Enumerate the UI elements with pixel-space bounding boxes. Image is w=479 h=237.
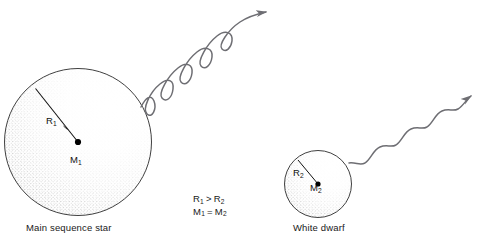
- relation-equations: R1>R2 M1=M2: [193, 193, 227, 218]
- relation-radius: R1>R2: [193, 193, 227, 206]
- white-dwarf-caption: White dwarf: [293, 222, 345, 233]
- main-sequence-star-caption: Main sequence star: [26, 222, 112, 233]
- main-sequence-center-dot: [75, 139, 81, 145]
- white-dwarf-radiation-wave: [349, 96, 471, 164]
- main-sequence-mass-label: M1: [70, 155, 82, 165]
- diagram-canvas: [0, 0, 479, 237]
- main-sequence-radius-label: R1: [46, 116, 57, 126]
- relation-mass: M1=M2: [193, 206, 227, 219]
- white-dwarf-mass-label: M2: [310, 183, 322, 193]
- main-sequence-radiation-wave: [141, 12, 266, 115]
- main-sequence-star-sphere: [4, 68, 153, 217]
- stellar-comparison-figure: R1 M1 R2 M2 Main sequence star White dwa…: [0, 0, 479, 237]
- white-dwarf-radius-label: R2: [293, 168, 304, 178]
